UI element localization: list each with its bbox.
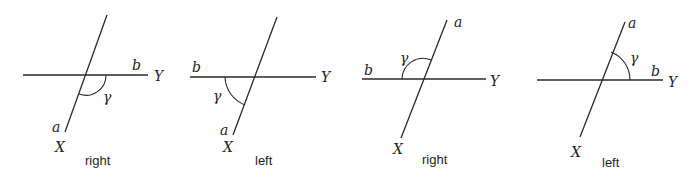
- panel-2: b Y γ a X left: [190, 17, 332, 168]
- label-gamma: γ: [400, 50, 409, 66]
- caption-right: right: [422, 152, 448, 167]
- caption-left: left: [255, 153, 273, 168]
- line-a-slanted: [233, 17, 277, 135]
- label-X: X: [54, 139, 66, 155]
- label-X: X: [570, 144, 582, 160]
- label-Y: Y: [668, 74, 679, 90]
- angle-gamma-arc: [79, 75, 106, 95]
- label-gamma: γ: [103, 89, 112, 105]
- label-gamma: γ: [213, 88, 222, 104]
- angle-gamma-arc: [225, 77, 245, 105]
- label-X: X: [392, 141, 404, 157]
- angle-gamma-arc: [611, 52, 630, 80]
- panel-1: b Y γ a X right: [23, 15, 165, 168]
- label-b: b: [364, 62, 373, 78]
- panel-3: a γ b Y X right: [362, 14, 501, 167]
- label-a: a: [220, 122, 228, 138]
- caption-left: left: [602, 155, 620, 170]
- panel-4: a γ b Y X left: [537, 15, 679, 170]
- line-a-slanted: [65, 15, 107, 132]
- label-b: b: [132, 57, 141, 73]
- label-X: X: [222, 139, 234, 155]
- label-a: a: [454, 14, 462, 30]
- label-Y: Y: [154, 68, 165, 84]
- label-a: a: [628, 15, 636, 31]
- caption-right: right: [85, 153, 111, 168]
- label-Y: Y: [490, 73, 501, 89]
- label-gamma: γ: [630, 50, 639, 66]
- label-Y: Y: [321, 69, 332, 85]
- label-b: b: [192, 59, 201, 75]
- label-a: a: [52, 119, 60, 135]
- angle-orientation-diagram: b Y γ a X right b Y γ a X left a γ b Y X…: [0, 0, 694, 182]
- label-b: b: [651, 63, 660, 79]
